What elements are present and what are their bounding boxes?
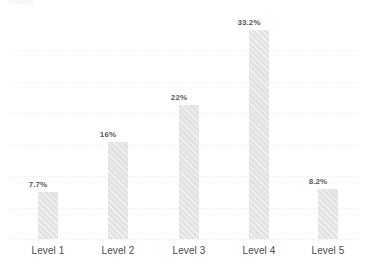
category-label-level-2: Level 2 bbox=[102, 245, 135, 256]
bar-level-4[interactable] bbox=[249, 30, 269, 239]
category-label-level-4: Level 4 bbox=[243, 245, 276, 256]
category-axis: Level 1 Level 2 Level 3 Level 4 Level 5 bbox=[0, 245, 372, 263]
bar-chart: Figure 7.7% 16% 22% 33.2% 8.2% bbox=[0, 0, 372, 272]
bar-value-level-3: 22% bbox=[171, 93, 187, 102]
gridline bbox=[12, 82, 360, 83]
bar-level-1[interactable] bbox=[38, 192, 58, 239]
gridline bbox=[12, 239, 360, 240]
bar-value-level-2: 16% bbox=[100, 130, 116, 139]
bar-level-2[interactable] bbox=[108, 142, 128, 239]
bar-level-3[interactable] bbox=[179, 105, 199, 239]
category-label-level-3: Level 3 bbox=[173, 245, 206, 256]
bar-value-level-1: 7.7% bbox=[29, 180, 48, 189]
category-label-level-1: Level 1 bbox=[32, 245, 65, 256]
bar-value-level-5: 8.2% bbox=[309, 177, 328, 186]
category-label-level-5: Level 5 bbox=[312, 245, 345, 256]
bar-value-level-4: 33.2% bbox=[237, 18, 260, 27]
bar-level-5[interactable] bbox=[318, 189, 338, 239]
chart-title-clipped: Figure bbox=[8, 0, 34, 4]
gridline bbox=[12, 50, 360, 51]
